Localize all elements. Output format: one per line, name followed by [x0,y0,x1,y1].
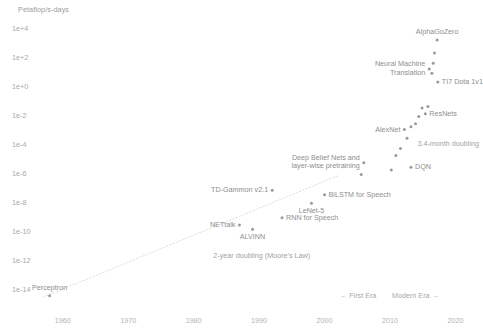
y-axis-tick: 1e+2 [12,53,28,62]
x-axis-tick: 2020 [447,316,463,325]
data-point-label: ResNets [429,109,457,118]
moores-law-annotation: 2-year doubling (Moore's Law) [213,251,310,260]
data-point-label: TI7 Dota 1v1 [442,78,483,87]
data-point [432,62,435,65]
x-axis-tick: 1990 [251,316,267,325]
data-point-label: Deep Belief Nets andlayer-wise pretraini… [292,154,360,171]
data-point-label: TD-Gammon v2.1 [211,186,268,195]
data-point [417,115,420,118]
y-axis-tick: 1e-10 [12,227,30,236]
data-point-label: AlphaGoZero [416,28,459,37]
data-point [399,147,402,150]
data-point-label: Neural MachineTranslation [375,60,425,77]
data-point-label: LeNet-5 [299,207,325,216]
data-point [362,161,365,164]
y-axis-tick: 1e-6 [12,169,26,178]
data-point [390,169,393,172]
y-axis-tick: 1e-4 [12,140,26,149]
data-point [310,202,313,205]
y-axis-tick: 1e-2 [12,111,26,120]
x-axis-tick: 1980 [186,316,202,325]
data-point-label: DQN [415,163,431,172]
y-axis-tick: 1e+4 [12,24,28,33]
data-point-label: Perceptron [32,283,67,292]
data-point [409,166,412,169]
data-point [436,80,439,83]
data-point [271,189,274,192]
data-point [360,173,363,176]
x-axis-tick: 1960 [55,316,71,325]
y-axis-tick: 1e+0 [12,82,28,91]
data-point [406,137,409,140]
data-point [48,294,51,297]
data-point [323,193,326,196]
x-axis-tick: 2000 [317,316,333,325]
data-point [436,39,439,42]
data-point [414,122,417,125]
data-point [238,223,241,226]
data-point [251,228,254,231]
data-point [394,154,397,157]
data-point-label: BiLSTM for Speech [329,190,391,199]
data-point [428,67,431,70]
data-point [424,112,427,115]
data-point [433,52,436,55]
data-point [409,125,412,128]
data-point [403,128,406,131]
y-axis-tick: 1e-8 [12,198,26,207]
first-era-marker: ← First Era [340,291,376,300]
data-point [421,106,424,109]
modern-era-marker: Modern Era → [392,291,439,300]
y-axis-tick: 1e-12 [12,256,30,265]
data-point-label: NETtalk [210,221,236,230]
y-axis-tick: 1e-14 [12,285,30,294]
data-point [281,216,284,219]
data-point [430,72,433,75]
modern-doubling-annotation: 3.4-month doubling [417,139,479,148]
x-axis-tick: 1970 [120,316,136,325]
data-point-label: ALVINN [240,233,265,242]
moores-law-line [43,176,338,297]
data-point-label: AlexNet [375,125,400,134]
x-axis-tick: 2010 [382,316,398,325]
